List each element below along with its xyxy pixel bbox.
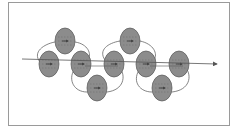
node-n5: [104, 51, 124, 77]
node-n9: [169, 51, 189, 77]
node-n3: [71, 51, 91, 77]
node-n7: [136, 51, 156, 77]
node-n6: [120, 28, 140, 54]
node-n2: [39, 51, 59, 77]
node-n1: [55, 28, 75, 54]
node-n4: [87, 75, 107, 101]
ellipse-chain-diagram: [0, 0, 240, 130]
node-n8: [152, 75, 172, 101]
